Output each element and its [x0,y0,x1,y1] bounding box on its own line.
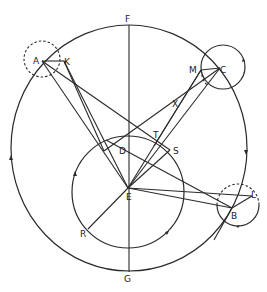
label-X: X [172,99,178,109]
label-G: G [124,274,131,284]
line-CD [104,68,220,151]
label-L: L [251,190,256,200]
label-R: R [80,229,86,239]
line-CE [128,68,220,188]
label-T: T [152,130,159,140]
line-ER [88,188,128,229]
line-KE [64,61,128,188]
outer-circle-arrow-left-icon [9,155,13,160]
line-K-down [64,61,104,151]
diagram-canvas: F G A K M C X T D S E B L R [0,0,267,292]
label-B: B [231,211,237,221]
label-S: S [173,146,179,156]
epicycle-A [24,41,60,77]
label-K: K [64,57,71,67]
label-C: C [220,65,226,75]
label-E: E [126,192,132,202]
line-AE [42,61,128,188]
label-D: D [119,146,126,156]
label-F: F [125,14,130,24]
line-AS [42,61,170,150]
label-M: M [189,65,197,75]
label-A: A [33,56,40,66]
geometric-diagram: F G A K M C X T D S E B L R [0,0,267,292]
